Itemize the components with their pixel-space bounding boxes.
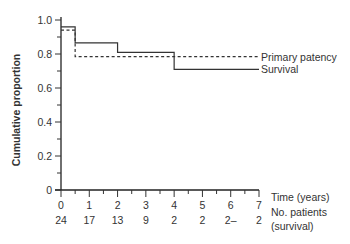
x-tick-label: 0 <box>58 199 64 211</box>
at-risk-label: No. patients <box>271 206 327 218</box>
at-risk-count: 9 <box>143 214 149 226</box>
x-tick-label: 7 <box>256 199 262 211</box>
at-risk-sublabel: (survival) <box>271 220 314 232</box>
y-tick-label: 0 <box>46 184 52 196</box>
x-tick-label: 3 <box>143 199 149 211</box>
y-axis-label: Cumulative proportion <box>10 54 22 167</box>
at-risk-count: 24 <box>55 214 67 226</box>
survival-curve <box>61 27 259 70</box>
y-tick-label: 1.0 <box>37 14 52 26</box>
legend-primary-patency: Primary patency <box>261 51 338 63</box>
x-tick-label: 1 <box>86 199 92 211</box>
y-tick-label: 0.2 <box>37 150 52 162</box>
legend-survival: Survival <box>261 63 298 75</box>
at-risk-count: 2– <box>225 214 237 226</box>
x-tick-label: 4 <box>171 199 177 211</box>
y-tick-label: 0.6 <box>37 82 52 94</box>
x-tick-label: 2 <box>115 199 121 211</box>
chart-canvas: 00.20.40.60.81.0012345672417139222–2Time… <box>0 0 350 244</box>
at-risk-count: 13 <box>112 214 124 226</box>
at-risk-count: 2 <box>256 214 262 226</box>
y-tick-label: 0.8 <box>37 48 52 60</box>
x-tick-label: 6 <box>228 199 234 211</box>
x-tick-label: 5 <box>200 199 206 211</box>
y-tick-label: 0.4 <box>37 116 52 128</box>
at-risk-count: 2 <box>171 214 177 226</box>
x-axis-label: Time (years) <box>271 191 330 203</box>
at-risk-count: 2 <box>200 214 206 226</box>
at-risk-count: 17 <box>83 214 95 226</box>
km-chart: 00.20.40.60.81.0012345672417139222–2Time… <box>0 0 350 244</box>
